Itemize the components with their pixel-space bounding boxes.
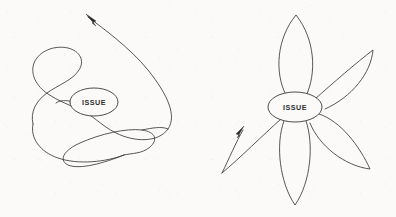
petal-lower-right: [310, 114, 370, 169]
petal-lower-left-open: [222, 119, 281, 173]
diagram-canvas: ISSUE ISSUE: [0, 0, 396, 217]
petal-upper-right: [315, 50, 373, 109]
petal-top: [279, 15, 313, 96]
right-diagram: ISSUE: [0, 0, 396, 217]
petal-bottom: [280, 121, 311, 205]
petal-lower-left-open-return: [222, 130, 243, 173]
right-issue-node[interactable]: ISSUE: [268, 92, 322, 122]
right-issue-label: ISSUE: [283, 103, 307, 112]
